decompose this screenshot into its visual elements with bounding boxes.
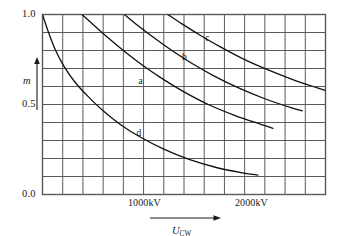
y-axis-arrow-head [34, 57, 40, 64]
x-tick-label-2000kv: 2000kV [235, 198, 268, 208]
curve-label-c: c [205, 34, 209, 44]
curve-d [43, 15, 258, 176]
x-axis-label: UCW [172, 221, 191, 236]
y-axis-label: m [23, 76, 31, 87]
y-tick-label-2: 0.5 [22, 99, 36, 110]
y-tick-label-1: 1.0 [22, 9, 36, 20]
chart-plot-area [0, 0, 340, 236]
chart-figure: 1.0 0.5 0.0 m 1000kV 2000kV UCW a b c d [0, 0, 340, 236]
y-tick-label-3: 0.0 [22, 189, 36, 200]
curve-b [124, 15, 302, 111]
curve-label-a: a [139, 77, 143, 87]
x-tick-label-1000kv: 1000kV [128, 198, 161, 208]
curve-label-d: d [137, 129, 142, 139]
x-axis-label-base: U [172, 225, 180, 236]
x-axis-arrow-head [214, 215, 222, 221]
x-axis-label-subscript: CW [180, 230, 192, 236]
curve-c [168, 15, 326, 91]
curve-label-b: b [182, 53, 187, 63]
